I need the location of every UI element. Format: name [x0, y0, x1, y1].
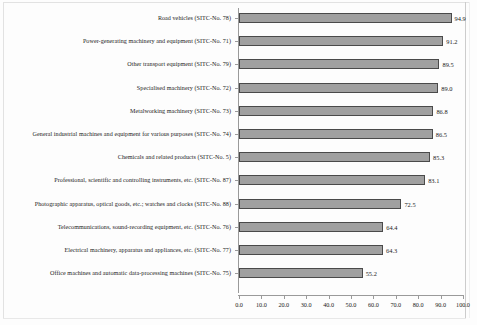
category-label: Telecommunications, sound-recording equi… [58, 217, 231, 238]
bar-value-label: 86.8 [436, 101, 447, 122]
value-axis-tick-label: 80.0 [413, 301, 424, 308]
category-axis-tick [235, 88, 239, 89]
category-axis-tick [235, 157, 239, 158]
category-label: Other transport equipment (SITC-No. 79) [127, 54, 231, 75]
category-axis-tick [235, 18, 239, 19]
value-axis-tick [441, 295, 442, 299]
value-axis-tick-label: 90.0 [435, 301, 446, 308]
value-axis-tick-label: 70.0 [390, 301, 401, 308]
value-axis-tick [284, 295, 285, 299]
category-label: Specialised machinery (SITC-No. 72) [137, 78, 231, 99]
category-axis-tick [235, 134, 239, 135]
category-label: Electrical machinery, apparatus and appl… [64, 240, 231, 261]
bar [239, 175, 425, 185]
category-axis-tick [235, 64, 239, 65]
bar-value-label: 89.0 [441, 78, 452, 99]
bar-value-label: 91.2 [446, 31, 457, 52]
bar [239, 13, 452, 23]
category-axis-tick [235, 227, 239, 228]
value-axis-tick [351, 295, 352, 299]
category-axis-tick [235, 273, 239, 274]
bar [239, 222, 383, 232]
category-label: Office machines and automatic data-proce… [50, 263, 231, 284]
bar [239, 199, 401, 209]
category-label: Power-generating machinery and equipment… [83, 31, 231, 52]
bar [239, 268, 363, 278]
category-axis-tick [235, 111, 239, 112]
category-axis-tick [235, 41, 239, 42]
category-label: Photographic apparatus, optical goods, e… [35, 194, 231, 215]
bar [239, 152, 430, 162]
value-axis-tick-label: 50.0 [346, 301, 357, 308]
bar-value-label: 64.3 [386, 240, 397, 261]
bar-value-label: 72.5 [404, 194, 415, 215]
bar [239, 129, 433, 139]
category-label: Metalworking machinery (SITC-No. 73) [130, 101, 231, 122]
bar-value-label: 64.4 [386, 217, 397, 238]
category-label: Chemicals and related products (SITC-No.… [118, 147, 231, 168]
value-axis-tick [418, 295, 419, 299]
bar-value-label: 55.2 [366, 263, 377, 284]
bar [239, 59, 439, 69]
bar-value-label: 83.1 [428, 170, 439, 191]
value-axis-tick [306, 295, 307, 299]
category-axis-tick [235, 250, 239, 251]
bar [239, 36, 443, 46]
value-axis-tick-label: 30.0 [301, 301, 312, 308]
bar-value-label: 85.3 [433, 147, 444, 168]
value-axis-tick [396, 295, 397, 299]
category-axis-tick [235, 204, 239, 205]
value-axis-tick [261, 295, 262, 299]
category-label: General industrial machines and equipmen… [33, 124, 231, 145]
value-axis-tick-label: 100.0 [456, 301, 470, 308]
value-axis-tick [373, 295, 374, 299]
bar [239, 83, 438, 93]
category-label: Professional, scientific and controlling… [54, 170, 231, 191]
bar [239, 106, 433, 116]
bar-chart-plot-area: Road vehicles (SITC-No. 78)94.9Power-gen… [0, 0, 477, 325]
value-axis-tick-label: 0.0 [235, 301, 243, 308]
value-axis-tick-label: 40.0 [323, 301, 334, 308]
value-axis-tick-label: 60.0 [368, 301, 379, 308]
value-axis-tick [239, 295, 240, 299]
value-axis-tick-label: 20.0 [278, 301, 289, 308]
bar-value-label: 94.9 [455, 8, 466, 29]
category-axis-tick [235, 180, 239, 181]
value-axis-tick [463, 295, 464, 299]
chart-page: Road vehicles (SITC-No. 78)94.9Power-gen… [0, 0, 477, 325]
value-axis-tick-label: 10.0 [256, 301, 267, 308]
category-label: Road vehicles (SITC-No. 78) [158, 8, 231, 29]
bar [239, 245, 383, 255]
bar-value-label: 89.5 [442, 54, 453, 75]
bar-value-label: 86.5 [436, 124, 447, 145]
value-axis-tick [329, 295, 330, 299]
